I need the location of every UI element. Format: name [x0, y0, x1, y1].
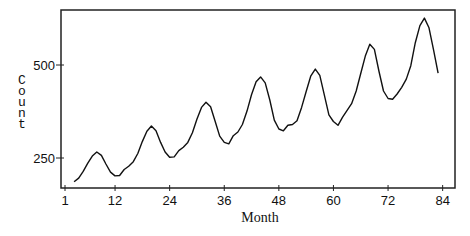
x-tick-label: 1	[61, 193, 68, 208]
plot-frame	[61, 10, 455, 188]
line-chart: 112243648607284 250500 Month Count	[0, 0, 470, 236]
x-tick-label: 84	[435, 193, 449, 208]
x-tick-label: 36	[217, 193, 231, 208]
y-axis-ticks: 250500	[33, 58, 64, 166]
x-axis-title: Month	[241, 210, 278, 225]
x-tick-label: 60	[326, 193, 340, 208]
y-tick-label: 500	[33, 58, 55, 73]
x-tick-label: 48	[272, 193, 286, 208]
x-tick-label: 12	[108, 193, 122, 208]
y-tick-label: 250	[33, 151, 55, 166]
x-tick-label: 72	[381, 193, 395, 208]
x-tick-label: 24	[162, 193, 176, 208]
y-axis-title-letter: t	[18, 117, 26, 132]
count-line	[74, 18, 438, 182]
y-axis-title: Count	[18, 73, 26, 132]
